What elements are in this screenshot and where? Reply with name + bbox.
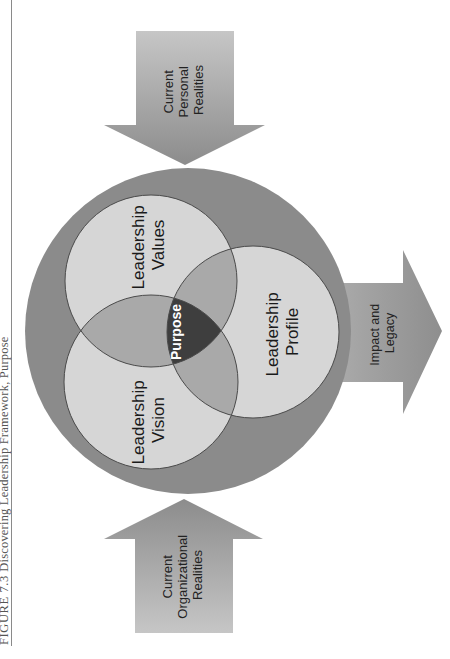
arrow-top-label: Current Personal Realities bbox=[161, 63, 206, 118]
label-purpose: Purpose bbox=[168, 304, 184, 360]
arrow-current-organizational-realities: Current Organizational Realities bbox=[104, 499, 263, 633]
arrow-current-personal-realities: Current Personal Realities bbox=[104, 31, 265, 165]
leadership-framework-diagram: Current Personal Realities Current Organ… bbox=[0, 0, 450, 659]
